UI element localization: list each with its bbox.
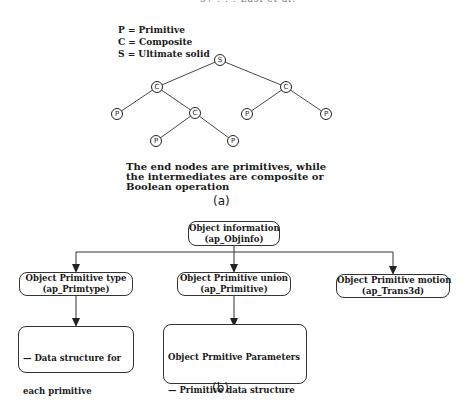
box-subtitle: (ap_Trans3d) bbox=[337, 286, 449, 297]
box-object-primitive-type: Object Primitive type (ap_Primtype) bbox=[19, 272, 133, 296]
box-object-primitive-motion: Object Primitive motion (ap_Trans3d) bbox=[336, 274, 450, 298]
caption-line: Boolean operation bbox=[126, 182, 229, 192]
box-title: Object Primitive motion bbox=[337, 275, 449, 286]
box-object-information: Object information (ap_Objinfo) bbox=[188, 221, 280, 246]
tree-node-composite: C bbox=[280, 81, 292, 93]
box-subtitle: (ap_Objinfo) bbox=[189, 234, 279, 245]
box-subtitle: (ap_Primtype) bbox=[20, 284, 132, 295]
box-title: Object Primitive union bbox=[178, 273, 290, 284]
detail-line: — Data structure for bbox=[23, 353, 129, 364]
box-title: Object Primitive type bbox=[20, 273, 132, 284]
detail-line: each primitive bbox=[23, 386, 129, 397]
tree-node-composite: C bbox=[189, 107, 201, 119]
box-primitive-type-details: — Data structure for each primitive — Sh… bbox=[18, 326, 134, 373]
figure-label-a: (a) bbox=[213, 194, 230, 208]
detail-line: Object Prmitive Parameters bbox=[168, 352, 302, 363]
detail-line: — Primitive data structure bbox=[168, 385, 302, 396]
tree-node-primitive: P bbox=[227, 135, 239, 147]
tree-node-primitive: P bbox=[241, 108, 253, 120]
tree-node-primitive: P bbox=[150, 135, 162, 147]
box-title: Object information bbox=[189, 223, 279, 234]
tree-node-solid: S bbox=[214, 54, 226, 66]
tree-node-composite: C bbox=[151, 81, 163, 93]
box-primitive-parameters: Object Prmitive Parameters — Primitive d… bbox=[163, 324, 307, 384]
figure-label-b: (b) bbox=[212, 381, 229, 395]
tree-node-primitive: P bbox=[111, 108, 123, 120]
tree-node-primitive: P bbox=[320, 108, 332, 120]
box-subtitle: (ap_Primitive) bbox=[178, 284, 290, 295]
box-object-primitive-union: Object Primitive union (ap_Primitive) bbox=[177, 272, 291, 296]
